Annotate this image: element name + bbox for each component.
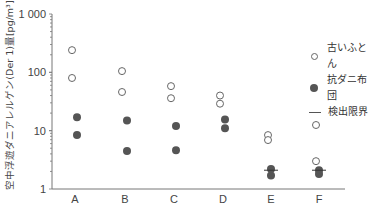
svg-text:B: B [121, 193, 128, 205]
svg-text:A: A [71, 193, 79, 205]
svg-text:E: E [267, 193, 274, 205]
open-circle-icon [308, 53, 321, 60]
filled-circle-icon [308, 84, 321, 92]
legend: 古いふとん 抗ダニ布団 検出限界 [308, 40, 372, 120]
svg-text:1: 1 [40, 183, 46, 195]
svg-text:10: 10 [34, 125, 46, 137]
legend-item-detection-limit: 検出限界 [308, 104, 372, 120]
legend-item-old-futon: 古いふとん [308, 40, 372, 72]
svg-text:F: F [316, 193, 323, 205]
svg-text:C: C [170, 193, 178, 205]
legend-item-anti-mite: 抗ダニ布団 [308, 72, 372, 104]
svg-text:D: D [219, 193, 227, 205]
svg-text:1 000: 1 000 [18, 8, 46, 20]
line-icon [308, 112, 322, 113]
svg-text:100: 100 [28, 66, 46, 78]
